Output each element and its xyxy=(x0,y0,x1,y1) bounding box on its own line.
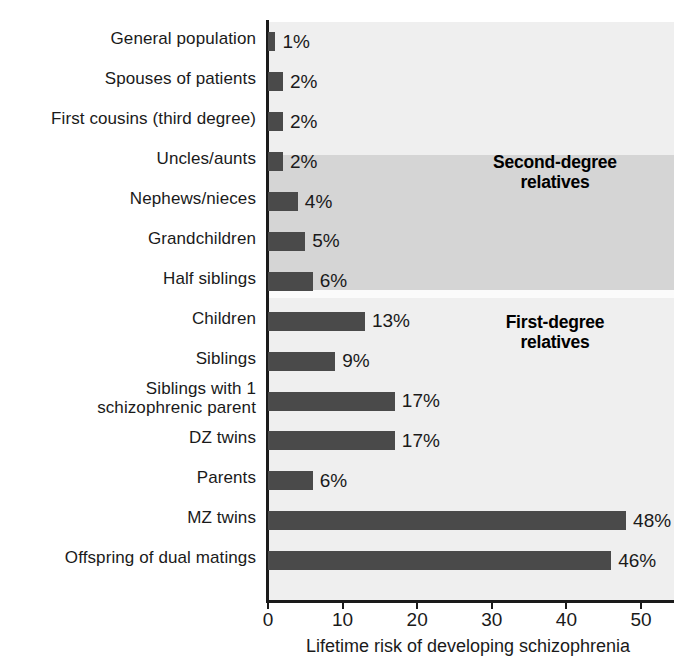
category-label: Grandchildren xyxy=(148,229,256,248)
bar-value-label: 1% xyxy=(282,32,309,52)
x-axis-tick xyxy=(342,600,344,609)
x-axis-tick-label: 30 xyxy=(472,609,512,631)
category-label: Children xyxy=(192,309,256,328)
bar xyxy=(268,272,313,291)
x-axis-tick xyxy=(267,600,269,609)
schizophrenia-risk-bar-chart: General populationSpouses of patientsFir… xyxy=(0,0,694,666)
category-label: Half siblings xyxy=(163,269,256,288)
bar xyxy=(268,232,305,251)
bar xyxy=(268,312,365,331)
bar-value-label: 6% xyxy=(320,471,347,491)
category-label: Siblings xyxy=(196,349,256,368)
bar xyxy=(268,72,283,91)
x-axis-tick-label: 10 xyxy=(323,609,363,631)
bar-value-label: 6% xyxy=(320,271,347,291)
bar-value-label: 46% xyxy=(618,551,656,571)
bar-value-label: 9% xyxy=(342,351,369,371)
category-label: Uncles/aunts xyxy=(157,149,256,168)
bar-value-label: 2% xyxy=(290,72,317,92)
bar xyxy=(268,32,275,51)
x-axis-tick xyxy=(416,600,418,609)
bar-value-label: 17% xyxy=(402,391,440,411)
x-axis-tick xyxy=(491,600,493,609)
category-label: Spouses of patients xyxy=(105,69,256,88)
bar xyxy=(268,352,335,371)
x-axis-tick-label: 50 xyxy=(621,609,661,631)
x-axis-tick-label: 0 xyxy=(248,609,288,631)
category-label: MZ twins xyxy=(187,508,256,527)
bar-value-label: 17% xyxy=(402,431,440,451)
x-axis-tick xyxy=(565,600,567,609)
bar xyxy=(268,551,611,570)
x-axis-tick-label: 40 xyxy=(546,609,586,631)
category-label: General population xyxy=(111,29,256,48)
annotation-first-degree-relatives: First-degree relatives xyxy=(450,312,660,352)
bar-value-label: 5% xyxy=(312,231,339,251)
x-axis-tick xyxy=(640,600,642,609)
x-axis-line xyxy=(266,600,674,603)
bar-value-label: 4% xyxy=(305,192,332,212)
bar xyxy=(268,392,395,411)
bar xyxy=(268,511,626,530)
bar-value-label: 13% xyxy=(372,311,410,331)
bar-value-label: 2% xyxy=(290,112,317,132)
category-label: Parents xyxy=(197,468,256,487)
bar xyxy=(268,112,283,131)
category-label-column: General populationSpouses of patientsFir… xyxy=(0,0,262,666)
bar xyxy=(268,471,313,490)
x-axis-tick-label: 20 xyxy=(397,609,437,631)
annotation-second-degree-relatives: Second-degree relatives xyxy=(450,152,660,192)
category-label: Nephews/nieces xyxy=(130,189,256,208)
category-label: Siblings with 1 schizophrenic parent xyxy=(97,379,256,417)
bar xyxy=(268,431,395,450)
category-label: DZ twins xyxy=(189,428,256,447)
bar xyxy=(268,192,298,211)
bar xyxy=(268,152,283,171)
category-label: First cousins (third degree) xyxy=(51,109,256,128)
category-label: Offspring of dual matings xyxy=(65,548,256,567)
x-axis-title: Lifetime risk of developing schizophreni… xyxy=(248,636,688,657)
bar-value-label: 2% xyxy=(290,152,317,172)
bar-value-label: 48% xyxy=(633,511,671,531)
